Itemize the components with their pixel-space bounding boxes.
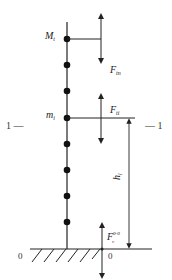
mass-node xyxy=(64,88,71,95)
level-mass-label: mi xyxy=(46,109,55,121)
base-label-left: 0 xyxy=(18,251,23,261)
mass-node xyxy=(64,193,71,200)
structure-diagram: Mt Ftn mi Fti hi F0-0 v 1 — — 1 0 0 xyxy=(0,0,172,280)
section-label-right: — 1 xyxy=(144,120,163,131)
base-label-right: 0 xyxy=(108,251,113,261)
height-label: hi xyxy=(111,173,123,180)
top-mass-label: Mt xyxy=(44,30,55,42)
level-force-label: Fti xyxy=(109,104,120,116)
base-point xyxy=(101,248,104,251)
mass-node xyxy=(64,141,71,148)
top-force-label: Ftn xyxy=(109,64,121,76)
section-label-left: 1 — xyxy=(6,120,25,131)
mass-node xyxy=(64,167,71,174)
mass-node xyxy=(64,219,71,226)
base-force-sub: v xyxy=(112,239,115,244)
mass-node xyxy=(64,62,71,69)
ground-hatch xyxy=(32,249,100,262)
